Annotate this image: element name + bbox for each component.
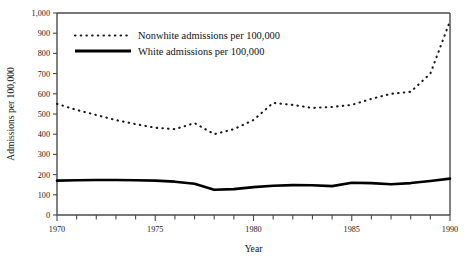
series-line-white: [57, 179, 450, 190]
y-axis-ticks: 01002003004005006007008009001,000: [32, 9, 57, 220]
chart-legend: Nonwhite admissions per 100,000 White ad…: [75, 30, 280, 57]
x-tick-label: 1980: [245, 225, 261, 234]
x-tick-label: 1990: [442, 225, 458, 234]
x-axis-title: Year: [245, 243, 263, 254]
y-tick-label: 0: [46, 211, 50, 220]
y-tick-label: 400: [38, 130, 50, 139]
x-tick-label: 1970: [49, 225, 65, 234]
y-tick-label: 800: [38, 49, 50, 58]
y-axis-title: Admissions per 100,000: [5, 67, 16, 161]
x-tick-label: 1975: [147, 225, 163, 234]
y-tick-label: 700: [38, 70, 50, 79]
x-tick-label: 1985: [344, 225, 360, 234]
y-tick-label: 1,000: [32, 9, 50, 18]
chart-page: 01002003004005006007008009001,000 197019…: [0, 0, 470, 265]
y-tick-label: 900: [38, 29, 50, 38]
y-tick-label: 200: [38, 171, 50, 180]
line-chart: 01002003004005006007008009001,000 197019…: [0, 0, 470, 265]
y-tick-label: 100: [38, 191, 50, 200]
y-tick-label: 300: [38, 150, 50, 159]
y-tick-label: 600: [38, 90, 50, 99]
x-axis-ticks: 19701975198019851990: [49, 215, 458, 234]
legend-label-nonwhite: Nonwhite admissions per 100,000: [138, 30, 280, 41]
legend-label-white: White admissions per 100,000: [138, 46, 264, 57]
y-tick-label: 500: [38, 110, 50, 119]
